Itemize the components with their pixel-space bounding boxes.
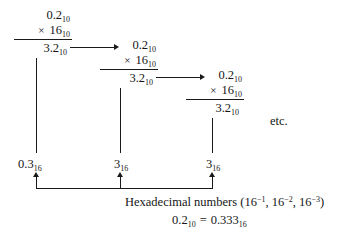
- product-base-3: 10: [231, 108, 239, 117]
- hex-digit-3: 316: [206, 158, 220, 171]
- multiplier-base-1: 10: [62, 30, 70, 39]
- caption-text-lead: Hexadecimal numbers (16: [125, 195, 257, 209]
- caption-line-1: Hexadecimal numbers (16−1, 16−2, 16−3): [125, 196, 324, 209]
- caption-close-paren: ): [320, 195, 324, 209]
- multiplier-value-1: 16: [50, 23, 63, 37]
- product-row-1: 3.210: [14, 40, 72, 56]
- operand-row-3: 0.210: [186, 68, 244, 83]
- product-value-3: 3.2: [215, 101, 231, 115]
- product-value-1: 3.2: [43, 41, 59, 55]
- hex-digit-value-1: 0.3: [18, 157, 34, 171]
- collect-bracket-baseline: [36, 188, 213, 189]
- result-rhs-base: 16: [239, 220, 247, 229]
- caption-line-2-result-equation: 0.210=0.33316: [172, 214, 247, 227]
- caption-exponent-2: −2: [284, 195, 293, 204]
- digit-drop-line-3: [212, 118, 213, 153]
- operand-base-2: 10: [148, 45, 156, 54]
- multiply-sign-icon-2: ×: [124, 54, 130, 66]
- operand-base-3: 10: [234, 75, 242, 84]
- multiply-sign-icon-3: ×: [210, 84, 216, 96]
- operand-row-1: 0.210: [14, 8, 72, 23]
- operand-base-1: 10: [62, 15, 70, 24]
- product-row-3: 3.210: [186, 100, 244, 116]
- product-value-2: 3.2: [129, 71, 145, 85]
- multiplier-value-3: 16: [222, 83, 235, 97]
- caption-exponent-1: −1: [257, 195, 266, 204]
- multiplication-block-2: 0.210 ×1610 3.210: [100, 38, 158, 86]
- equals-sign: =: [200, 213, 207, 227]
- digit-drop-line-1: [36, 58, 37, 153]
- digit-drop-line-2: [120, 88, 121, 153]
- operand-value-1: 0.2: [46, 8, 62, 22]
- hex-digit-1: 0.316: [18, 158, 42, 171]
- multiplication-block-3: 0.210 ×1610 3.210: [186, 68, 244, 116]
- caption-sep-2: , 16: [293, 195, 312, 209]
- multiply-sign-icon-1: ×: [38, 24, 44, 36]
- multiplier-value-2: 16: [136, 53, 149, 67]
- multiplier-row-2: ×1610: [100, 53, 158, 70]
- result-lhs-base: 10: [188, 220, 196, 229]
- operand-value-2: 0.2: [132, 38, 148, 52]
- conversion-diagram: 0.210 ×1610 3.210 0.210 ×1610 3.210 0.21…: [0, 0, 350, 233]
- collect-stem-1: [36, 177, 37, 188]
- caption-exponent-3: −3: [311, 195, 320, 204]
- operand-value-3: 0.2: [218, 68, 234, 82]
- product-base-1: 10: [59, 48, 67, 57]
- result-lhs-value: 0.2: [172, 213, 188, 227]
- product-base-2: 10: [145, 78, 153, 87]
- multiplier-row-3: ×1610: [186, 83, 244, 100]
- product-row-2: 3.210: [100, 70, 158, 86]
- operand-row-2: 0.210: [100, 38, 158, 53]
- multiplier-row-1: ×1610: [14, 23, 72, 40]
- result-rhs-value: 0.333: [211, 213, 239, 227]
- collect-stem-2: [120, 177, 121, 188]
- etc-label: etc.: [270, 115, 288, 128]
- caption-sep-1: , 16: [265, 195, 284, 209]
- multiplier-base-3: 10: [234, 90, 242, 99]
- multiplier-base-2: 10: [148, 60, 156, 69]
- hex-digit-2: 316: [114, 158, 128, 171]
- multiplication-block-1: 0.210 ×1610 3.210: [14, 8, 72, 56]
- collect-stem-3: [212, 177, 213, 188]
